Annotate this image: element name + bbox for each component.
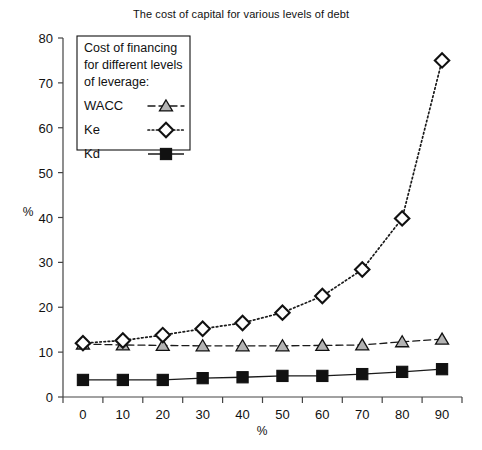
series-kd (77, 364, 447, 386)
chart-container: The cost of capital for various levels o… (0, 0, 482, 450)
data-point-ke (395, 211, 409, 225)
chart-plot-area: 01020304050607080 0102030405060708090 % … (0, 0, 482, 450)
x-tick-label: 20 (156, 407, 170, 422)
data-point-kd (77, 374, 88, 385)
data-point-ke (275, 305, 289, 319)
x-tick-label: 30 (195, 407, 209, 422)
data-point-kd (197, 373, 208, 384)
data-point-kd (357, 369, 368, 380)
x-tick-label: 60 (315, 407, 329, 422)
y-tick-label: 70 (39, 76, 53, 91)
series-wacc (76, 333, 448, 351)
y-tick-label: 80 (39, 31, 53, 46)
legend-label-kd: Kd (84, 146, 100, 161)
data-point-ke (315, 289, 329, 303)
data-point-kd (117, 374, 128, 385)
y-tick-label: 50 (39, 166, 53, 181)
y-tick-label: 30 (39, 255, 53, 270)
y-tick-label: 10 (39, 345, 53, 360)
legend-label-wacc: WACC (84, 98, 123, 113)
legend-title-line-2: for different levels (84, 58, 182, 72)
data-point-ke (156, 328, 170, 342)
data-point-wacc (436, 333, 449, 344)
data-point-ke (195, 322, 209, 336)
chart-legend: Cost of financing for different levels o… (77, 36, 190, 161)
data-point-kd (397, 366, 408, 377)
x-axis-ticks: 0102030405060708090 (63, 397, 462, 422)
data-point-kd (317, 370, 328, 381)
y-tick-label: 60 (39, 121, 53, 136)
x-tick-label: 50 (275, 407, 289, 422)
data-point-ke (355, 262, 369, 276)
data-point-ke (435, 53, 449, 67)
data-point-kd (436, 364, 447, 375)
data-point-kd (277, 370, 288, 381)
legend-label-ke: Ke (84, 122, 100, 137)
x-axis-title: % (257, 424, 268, 438)
data-point-kd (237, 372, 248, 383)
legend-title-line-3: of leverage: (84, 75, 149, 89)
y-tick-label: 20 (39, 300, 53, 315)
x-tick-label: 80 (395, 407, 409, 422)
legend-title-line-1: Cost of financing (84, 41, 177, 55)
y-axis-title: % (23, 205, 34, 219)
y-tick-label: 0 (46, 390, 53, 405)
x-tick-label: 90 (435, 407, 449, 422)
x-tick-label: 10 (116, 407, 130, 422)
x-tick-label: 70 (355, 407, 369, 422)
y-axis-ticks: 01020304050607080 (39, 31, 63, 405)
x-tick-label: 0 (79, 407, 86, 422)
data-point-ke (235, 316, 249, 330)
data-point-kd (157, 374, 168, 385)
y-tick-label: 40 (39, 211, 53, 226)
x-tick-label: 40 (235, 407, 249, 422)
